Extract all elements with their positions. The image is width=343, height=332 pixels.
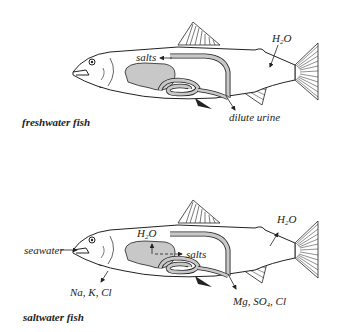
- saltwater-water-in-label: H2O: [137, 228, 156, 241]
- kidney-ions-label: Mg, SO4, Cl: [233, 296, 286, 309]
- freshwater-urine-label: dilute urine: [229, 112, 280, 123]
- seawater-label: seawater: [24, 245, 64, 256]
- saltwater-water-out-label: H2O: [277, 214, 296, 227]
- gill-ions-label: Na, K, Cl: [70, 287, 112, 298]
- diagram-canvas: [0, 0, 343, 332]
- saltwater-salts-label: salts: [186, 249, 206, 260]
- freshwater-water-label: H2O: [272, 33, 291, 46]
- freshwater-caption: freshwater fish: [22, 116, 90, 128]
- saltwater-caption: saltwater fish: [23, 311, 84, 323]
- freshwater-salts-label: salts: [136, 52, 156, 63]
